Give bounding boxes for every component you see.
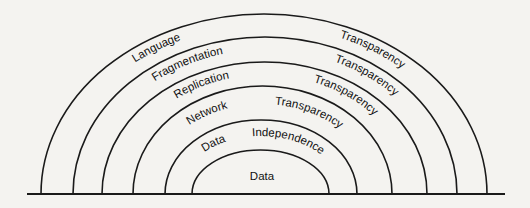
layered-transparency-diagram: Language Transparency Fragmentation Tran… — [0, 0, 530, 208]
label-network: Network — [184, 98, 229, 126]
label-independence: Independence — [252, 126, 327, 156]
label-network-transparency: Transparency — [274, 95, 345, 131]
label-data-core: Data — [250, 170, 275, 182]
label-language: Language — [130, 31, 182, 65]
